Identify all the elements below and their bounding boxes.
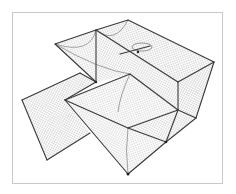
fish-trap-image (0, 0, 236, 194)
mesh-panels (22, 20, 214, 174)
